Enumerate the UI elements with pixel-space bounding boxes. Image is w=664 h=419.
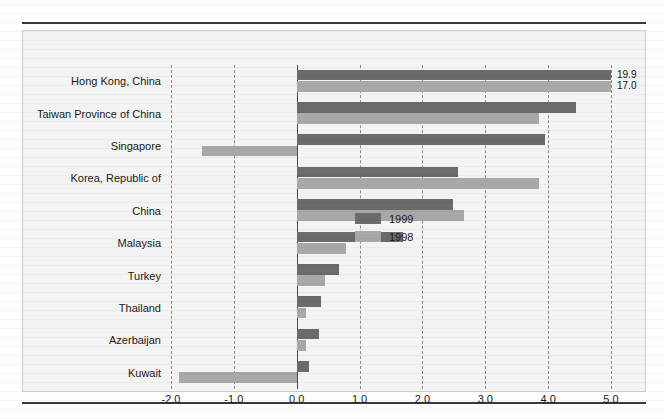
chart-row: Azerbaijan bbox=[171, 324, 611, 356]
legend-label-1999: 1999 bbox=[389, 213, 413, 225]
chart-row: Singapore bbox=[171, 130, 611, 162]
category-label: Korea, Republic of bbox=[71, 172, 162, 184]
chart-row: Hong Kong, China bbox=[171, 65, 611, 97]
legend-item-1999: 1999 bbox=[355, 211, 413, 226]
bar-1998 bbox=[297, 113, 540, 124]
bar-1999 bbox=[297, 264, 340, 275]
bar-1998 bbox=[297, 81, 611, 92]
plot-frame: -2.0-1.00.01.02.03.04.05.0Hong Kong, Chi… bbox=[22, 30, 646, 392]
bar-1998 bbox=[202, 146, 296, 157]
category-label: Thailand bbox=[119, 302, 161, 314]
x-tick-label: 4.0 bbox=[540, 393, 555, 405]
bar-value-label: 19.9 bbox=[617, 69, 636, 80]
category-label: China bbox=[132, 205, 161, 217]
legend-swatch-1999 bbox=[355, 213, 381, 224]
bar-1999 bbox=[297, 134, 545, 145]
figure: -2.0-1.00.01.02.03.04.05.0Hong Kong, Chi… bbox=[0, 0, 664, 419]
x-tick-label: 5.0 bbox=[603, 393, 618, 405]
chart-row: Turkey bbox=[171, 259, 611, 291]
bar-1998 bbox=[297, 308, 306, 319]
chart-row: Thailand bbox=[171, 292, 611, 324]
chart-row: Kuwait bbox=[171, 357, 611, 389]
bar-1999 bbox=[297, 329, 320, 340]
bar-1999 bbox=[297, 361, 309, 372]
category-label: Azerbaijan bbox=[109, 334, 161, 346]
gridline-5.0 bbox=[611, 65, 612, 389]
chart-row: Korea, Republic of bbox=[171, 162, 611, 194]
bar-1999 bbox=[297, 167, 458, 178]
category-label: Kuwait bbox=[128, 367, 161, 379]
bar-1998 bbox=[297, 275, 325, 286]
legend-swatch-1998 bbox=[355, 231, 381, 242]
bar-1999 bbox=[297, 199, 454, 210]
x-tick-label: -1.0 bbox=[224, 393, 243, 405]
bar-1999 bbox=[297, 296, 321, 307]
bar-value-label: 17.0 bbox=[617, 80, 636, 91]
x-tick-label: 1.0 bbox=[352, 393, 367, 405]
chart-legend: 1999 1998 bbox=[355, 211, 413, 247]
bar-1998 bbox=[297, 243, 347, 254]
bar-1999 bbox=[297, 102, 577, 113]
top-rule bbox=[22, 22, 646, 24]
category-label: Taiwan Province of China bbox=[37, 108, 161, 120]
legend-item-1998: 1998 bbox=[355, 229, 413, 244]
category-label: Singapore bbox=[111, 140, 161, 152]
category-label: Hong Kong, China bbox=[71, 75, 161, 87]
bar-1998 bbox=[297, 340, 306, 351]
bar-1998 bbox=[179, 372, 297, 383]
legend-label-1998: 1998 bbox=[389, 231, 413, 243]
x-tick-label: -2.0 bbox=[162, 393, 181, 405]
chart-row: Taiwan Province of China bbox=[171, 97, 611, 129]
category-label: Turkey bbox=[128, 270, 161, 282]
x-tick-label: 0.0 bbox=[289, 393, 304, 405]
x-tick-label: 3.0 bbox=[478, 393, 493, 405]
bar-1999 bbox=[297, 70, 611, 81]
x-tick-label: 2.0 bbox=[415, 393, 430, 405]
bar-1998 bbox=[297, 178, 540, 189]
category-label: Malaysia bbox=[118, 237, 161, 249]
